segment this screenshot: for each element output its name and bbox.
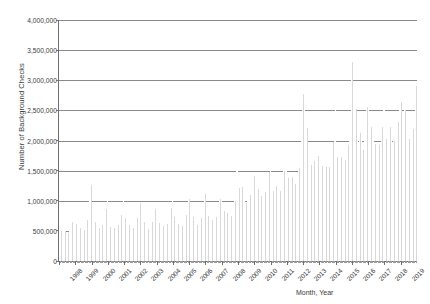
x-tick-label: 2014 [329, 267, 344, 282]
x-tick-label: 1999 [85, 267, 100, 282]
x-minor-tick [416, 261, 417, 263]
y-tick-mark [56, 140, 59, 141]
y-tick-mark [56, 50, 59, 51]
x-tick-label: 2009 [247, 267, 262, 282]
y-tick-label: 3,000,000 [1, 77, 57, 84]
x-tick-label: 2001 [117, 267, 132, 282]
y-tick-label: 500,000 [1, 227, 57, 234]
x-tick-label: 2016 [361, 267, 376, 282]
y-tick-mark [56, 261, 59, 262]
y-tick-mark [56, 20, 59, 21]
bar-series [59, 20, 417, 261]
x-tick-label: 2010 [264, 267, 279, 282]
y-tick-mark [56, 230, 59, 231]
y-axis-tick-labels: 4,000,0003,500,0003,000,0002,500,0002,00… [0, 0, 57, 304]
x-tick-label: 2005 [182, 267, 197, 282]
x-tick-label: 2011 [280, 267, 295, 282]
y-tick-mark [56, 200, 59, 201]
y-tick-label: 3,500,000 [1, 47, 57, 54]
x-tick-label: 2008 [231, 267, 246, 282]
x-tick-label: 2003 [150, 267, 165, 282]
chart-container: Number of Background Checks 4,000,0003,5… [0, 0, 430, 304]
plot-area [59, 20, 417, 261]
y-tick-label: 4,000,000 [1, 17, 57, 24]
x-tick-label: 2012 [296, 267, 311, 282]
y-tick-label: 2,000,000 [1, 137, 57, 144]
y-tick-label: 2,500,000 [1, 107, 57, 114]
x-tick-label: 2019 [410, 267, 425, 282]
y-tick-mark [56, 80, 59, 81]
x-tick-label: 2002 [133, 267, 148, 282]
y-tick-label: 0 [1, 258, 57, 265]
y-axis-line [58, 20, 59, 262]
bar [417, 36, 418, 261]
x-tick-label: 2013 [312, 267, 327, 282]
y-tick-mark [56, 110, 59, 111]
x-tick-label: 2004 [166, 267, 181, 282]
x-tick-label: 2017 [377, 267, 392, 282]
y-tick-mark [56, 170, 59, 171]
x-axis-title: Month, Year [296, 289, 333, 296]
x-axis-ticks [59, 261, 417, 266]
x-tick-label: 2018 [394, 267, 409, 282]
y-tick-label: 1,000,000 [1, 197, 57, 204]
x-tick-label: 2006 [198, 267, 213, 282]
x-tick-label: 2015 [345, 267, 360, 282]
x-tick-label: 2007 [215, 267, 230, 282]
x-tick-label: 1998 [68, 267, 83, 282]
y-tick-label: 1,500,000 [1, 167, 57, 174]
x-tick-label: 2000 [101, 267, 116, 282]
